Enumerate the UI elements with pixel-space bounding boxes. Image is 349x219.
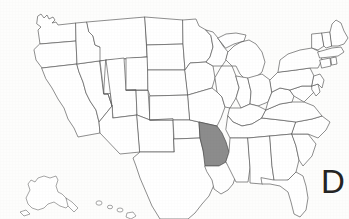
hawaii-island-oahu (107, 205, 112, 209)
state-nebraska (148, 70, 188, 96)
state-alabama (248, 136, 274, 184)
state-new-york (278, 48, 322, 72)
state-connecticut (320, 58, 331, 68)
alaska-aleutian-chain (20, 210, 30, 216)
hawaii-island-kauai (96, 201, 102, 205)
state-north-dakota (145, 17, 183, 45)
state-south-dakota (147, 44, 185, 70)
state-oregon (34, 41, 77, 68)
state-kansas (150, 95, 190, 120)
state-new-mexico (137, 115, 174, 152)
answer-choice-letter: D (319, 163, 347, 201)
state-massachusetts (318, 47, 344, 58)
state-rhode-island (331, 57, 337, 65)
state-washington (37, 14, 76, 44)
hawaii-island-big-island (126, 212, 136, 219)
state-alaska-inset (26, 176, 70, 210)
hawaii-island-maui (117, 208, 123, 212)
us-map-svg (0, 0, 349, 219)
alaska-panhandle (66, 198, 78, 212)
us-map-figure: D (0, 0, 349, 219)
state-maine (330, 20, 348, 46)
